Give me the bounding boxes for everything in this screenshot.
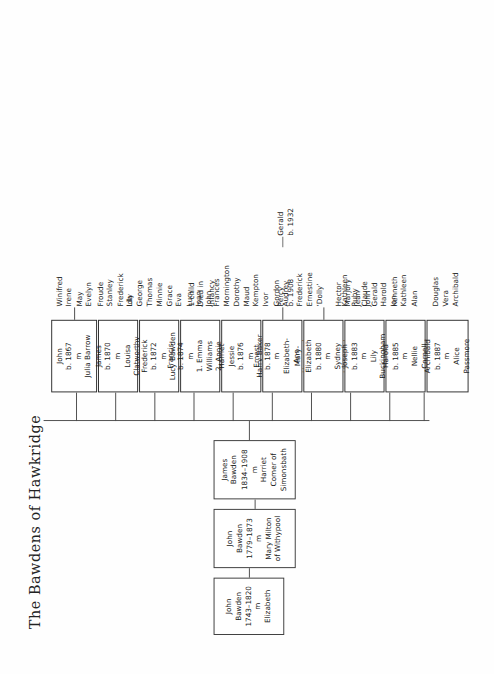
ancestor-box-james-bawden-1834: James Bawden 1834–1908 m Harriet Comer o… — [214, 440, 296, 499]
node-line: Joseph — [340, 344, 350, 368]
node-line: m — [443, 353, 453, 360]
node-line: Simonsbath — [279, 448, 289, 491]
grandchild-name: Douglas — [431, 224, 441, 306]
grandchildren-list-john: Winifred Irene May Evelyn — [55, 224, 94, 306]
node-line: Passmore — [462, 339, 472, 374]
connector-child-to-issue-c6 — [282, 307, 283, 319]
node-line: 1. Emma — [195, 340, 205, 372]
grandchild-name: Kathleen — [341, 224, 351, 306]
grandchild-name: George — [136, 224, 146, 306]
node-line: Alice — [452, 347, 462, 364]
connector-tick-c3 — [154, 392, 155, 421]
node-line: m — [254, 603, 264, 610]
node-line: John — [225, 598, 235, 614]
node-line: m — [401, 353, 411, 360]
grandchild-name: Gerald — [370, 224, 380, 306]
node-line: Francis — [166, 343, 176, 368]
connector-child-to-issue-c1 — [74, 307, 75, 319]
node-line: Mary- — [294, 346, 304, 366]
node-line: Elizabeth — [304, 339, 314, 372]
grandchild-name: Kathleen — [400, 224, 410, 306]
child-box-james-1870: James b. 1870 m Louisa Clatworthy — [98, 320, 138, 393]
grandchildren-list-harold: Kenneth Kathleen Alan — [390, 224, 420, 306]
descendant-percy: Percy b. 1908 — [277, 243, 297, 306]
node-line: b. 1880 — [314, 342, 324, 370]
node-line: Comer of — [269, 453, 279, 486]
node-line: m — [250, 466, 260, 473]
connector-tick-c1 — [76, 392, 77, 421]
family-tree-chart: The Bawdens of Hawkridge John Bawden 174… — [23, 31, 472, 642]
node-line: Williams — [205, 341, 215, 371]
page-canvas: The Bawdens of Hawkridge John Bawden 174… — [0, 0, 494, 674]
node-line: Frederick — [140, 340, 150, 373]
node-line: Harriet — [260, 457, 270, 482]
descendant-name: Percy — [277, 243, 287, 306]
connector-gen3-to-spine — [249, 421, 250, 440]
grandchild-name: Alan — [410, 224, 420, 306]
node-line: m — [323, 353, 333, 360]
node-line: Jessie — [227, 346, 237, 367]
child-box-john-1867: John b. 1867 m Julia Barrow — [51, 320, 97, 393]
node-line: Julia Barrow — [84, 335, 94, 378]
node-line: John — [55, 348, 65, 364]
node-line: Archibald — [423, 339, 433, 373]
connector-gen1-gen2 — [249, 568, 250, 578]
title-word-the: The — [26, 600, 43, 629]
node-line: m — [273, 353, 283, 360]
node-line: b. 1887 — [433, 342, 443, 370]
node-line: Louisa — [123, 345, 133, 368]
title-word-of: of — [26, 505, 43, 520]
grandchild-name: Frances — [213, 224, 223, 306]
node-line: m — [255, 535, 265, 542]
connector-tick-c8 — [350, 392, 351, 421]
node-line: Bawden — [230, 455, 240, 484]
grandchild-name: Ida — [126, 224, 136, 306]
chart-title: The Bawdens of Hawkridge — [26, 415, 43, 629]
grandchildren-list-archibald: Douglas Vera Archibald — [431, 224, 461, 306]
grandchild-name: Kempton — [252, 224, 262, 306]
connector-gen2-gen3 — [255, 499, 256, 509]
grandchild-name: Harold — [380, 224, 390, 306]
grandchild-name: ‘Dolly’ — [315, 224, 325, 306]
grandchild-name: Frederick — [296, 224, 306, 306]
grandchild-name: Dorothy — [232, 224, 242, 306]
grandchild-name: Archibald — [451, 224, 461, 306]
sibling-spine — [44, 420, 430, 421]
grandchild-name: Vera — [441, 224, 451, 306]
grandchild-name: Ruby — [350, 224, 360, 306]
child-box-francis-1874: Francis b. 1874 m 1. Emma Williams 2. An… — [180, 320, 220, 393]
node-line: b. 1874 — [176, 342, 186, 370]
grandchild-name: Minnie — [155, 224, 165, 306]
connector-tick-c9 — [389, 392, 390, 421]
grandchild-name: Ivor — [262, 224, 272, 306]
grandchild-name: Grace — [165, 224, 175, 306]
descendant-gerald: Gerald b. 1932 — [277, 173, 297, 236]
grandchild-name: 1 child — [187, 224, 197, 306]
node-line: Ernest — [253, 345, 263, 368]
node-line: Harriet — [217, 344, 227, 369]
node-line: 1834–1908 — [240, 449, 250, 490]
child-box-archibald-1887: Archibald b. 1887 m Alice Passmore — [427, 320, 469, 393]
connector-tick-c4 — [194, 392, 195, 421]
node-line: James — [221, 459, 231, 481]
connector-child-to-issue-c7 — [323, 307, 324, 319]
node-line: Elizabeth — [264, 590, 274, 623]
title-word-hawkridge: Hawkridge — [26, 415, 43, 500]
node-line: Bawden — [234, 592, 244, 621]
node-line: Elizabeth- — [282, 338, 292, 374]
grandchild-name: Stanley — [106, 224, 116, 306]
ancestor-box-john-bawden-1743: John Bawden 1743–1820 m Elizabeth — [214, 578, 285, 635]
node-line: Nellie — [410, 346, 420, 366]
node-line: Lily — [369, 350, 379, 362]
connector-tick-c2 — [115, 392, 116, 421]
grandchild-name: May — [75, 224, 85, 306]
connector-tick-c6 — [272, 392, 273, 421]
node-line: Harold — [381, 344, 391, 368]
grandchild-name: Froude — [96, 224, 106, 306]
node-line: Bawden — [235, 524, 245, 553]
grandchild-name: Mornington — [222, 224, 232, 306]
node-line: b. 1878 — [263, 342, 273, 370]
node-line: b. 1883 — [350, 342, 360, 370]
grandchild-name: Eva — [175, 224, 185, 306]
grandchild-name: Frederick — [116, 224, 126, 306]
